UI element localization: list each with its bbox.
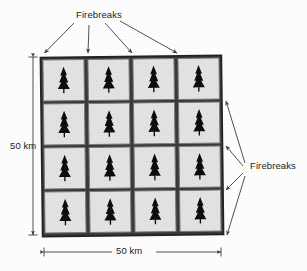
diagram-canvas <box>0 0 307 271</box>
leader-arrow <box>226 173 243 190</box>
label-firebreaks-top: Firebreaks <box>76 10 122 20</box>
figure-firebreak-grid: Firebreaks Firebreaks 50 km 50 km <box>0 0 307 271</box>
top-leader-arrows <box>45 21 178 53</box>
forest-grid <box>40 55 223 236</box>
leader-arrow <box>88 25 89 53</box>
label-width-50km: 50 km <box>116 246 142 256</box>
leader-arrow <box>226 101 245 163</box>
label-firebreaks-right: Firebreaks <box>250 161 296 171</box>
leader-arrow <box>45 23 75 53</box>
leader-arrow <box>105 23 132 53</box>
right-leader-arrows <box>226 101 245 235</box>
leader-arrow <box>120 21 177 53</box>
leader-arrow <box>227 176 245 235</box>
label-height-50km: 50 km <box>10 141 36 151</box>
